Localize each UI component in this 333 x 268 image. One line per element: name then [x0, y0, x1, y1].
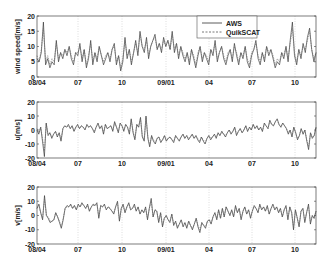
y-tick-label: 10	[27, 113, 35, 120]
y-tick-label: 10	[27, 43, 35, 50]
x-tick-label: 07	[74, 246, 82, 253]
x-tick-label: 08/04	[28, 79, 46, 86]
y-tick-label: 15	[27, 28, 35, 35]
x-tick-label: 07	[74, 160, 82, 167]
y-tick-label: 5	[31, 58, 35, 65]
axes-frame	[37, 16, 316, 77]
x-tick-label: 10	[291, 246, 299, 253]
y-tick-label: -10	[25, 141, 35, 148]
series-aws-line	[37, 196, 316, 233]
y-axis-label: v[m/s]	[14, 205, 22, 226]
chart-figure: 0510152008/04071009/01040710wind speed[m…	[0, 0, 333, 268]
panel-2: -20-100102008/04071009/01040710u[m/s]	[14, 99, 316, 168]
y-axis-label: wind speed[m/s]	[14, 19, 22, 75]
x-tick-label: 10	[291, 79, 299, 86]
x-tick-label: 08/04	[28, 246, 46, 253]
legend-quikscat-label: QuikSCAT	[226, 29, 261, 37]
x-tick-label: 07	[248, 160, 256, 167]
x-tick-label: 04	[205, 160, 213, 167]
x-tick-label: 09/01	[157, 246, 175, 253]
y-tick-label: 0	[31, 127, 35, 134]
x-tick-label: 07	[248, 246, 256, 253]
y-tick-label: -10	[25, 226, 35, 233]
x-tick-label: 10	[291, 160, 299, 167]
series-quikscat-line	[37, 117, 316, 151]
y-tick-label: 20	[27, 184, 35, 191]
y-tick-label: 20	[27, 13, 35, 20]
x-tick-label: 09/01	[157, 160, 175, 167]
x-tick-label: 09/01	[157, 79, 175, 86]
y-axis-label: u[m/s]	[14, 120, 22, 141]
legend: AWS QuikSCAT	[197, 16, 261, 38]
panel-1: 0510152008/04071009/01040710wind speed[m…	[14, 13, 316, 87]
axes-frame	[37, 102, 316, 158]
x-tick-label: 10	[118, 160, 126, 167]
x-tick-label: 08/04	[28, 160, 46, 167]
axes-frame	[37, 187, 316, 244]
y-tick-label: 0	[31, 212, 35, 219]
panel-3: -20-100102008/04071009/01040710v[m/s]	[14, 184, 316, 254]
series-aws-line	[37, 22, 316, 71]
y-tick-label: 10	[27, 198, 35, 205]
x-tick-label: 10	[118, 246, 126, 253]
x-tick-label: 04	[205, 79, 213, 86]
x-tick-label: 04	[205, 246, 213, 253]
series-aws-line	[37, 116, 316, 157]
x-tick-label: 07	[74, 79, 82, 86]
y-tick-label: 20	[27, 99, 35, 106]
x-tick-label: 07	[248, 79, 256, 86]
legend-aws-label: AWS	[226, 20, 242, 27]
x-tick-label: 10	[118, 79, 126, 86]
